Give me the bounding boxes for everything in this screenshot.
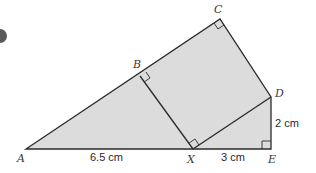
label-b: B: [132, 58, 141, 71]
length-de: 2 cm: [275, 117, 299, 129]
length-xe: 3 cm: [221, 151, 245, 163]
shaded-figure: [26, 19, 271, 149]
question-number-badge: [0, 29, 7, 43]
geometry-diagram: A B C D X E 6.5 cm 3 cm 2 cm: [0, 0, 316, 173]
label-x: X: [186, 153, 196, 166]
label-e: E: [267, 153, 276, 166]
label-a: A: [16, 152, 25, 165]
length-ax: 6.5 cm: [90, 151, 123, 163]
label-c: C: [214, 3, 223, 16]
label-d: D: [274, 87, 284, 100]
